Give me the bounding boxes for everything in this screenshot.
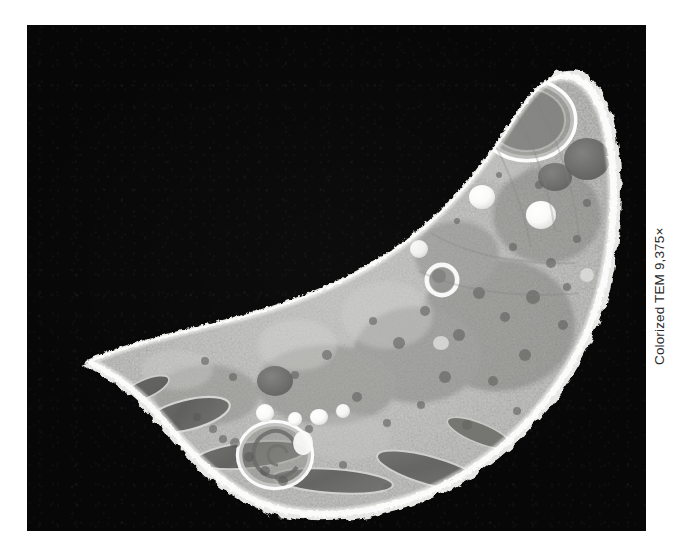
vacuole-mid-1 [256, 404, 274, 422]
vacuole-mid-4 [336, 404, 350, 418]
lipid-droplet-a [469, 185, 495, 209]
figure-page: Colorized TEM 9,375× [0, 0, 678, 547]
micrograph-panel [27, 25, 646, 531]
lipid-droplet-c [410, 240, 428, 258]
vacuole-upper [433, 336, 449, 350]
cell-micrograph-image [27, 25, 646, 531]
vacuole-edge [580, 268, 594, 282]
dense-body-mid [257, 366, 293, 396]
figure-caption: Colorized TEM 9,375× [651, 195, 669, 365]
cytoplasm-contents [27, 25, 646, 531]
caption-text: Colorized TEM 9,375× [651, 195, 669, 365]
vacuole-mid-3 [310, 409, 328, 425]
vacuole-mid-2 [288, 412, 302, 426]
